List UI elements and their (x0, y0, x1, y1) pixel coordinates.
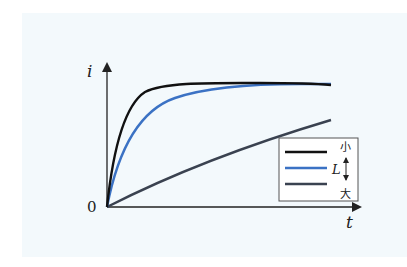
legend-label-large: 大 (340, 187, 351, 201)
x-axis-label: t (346, 212, 353, 232)
legend: 小 L 大 (279, 138, 358, 201)
rl-current-diagram: i t 0 小 L 大 (0, 0, 407, 267)
legend-label-small: 小 (340, 141, 351, 154)
y-axis-label: i (87, 61, 92, 81)
legend-label-l: L (331, 162, 341, 177)
origin-label: 0 (87, 198, 97, 216)
